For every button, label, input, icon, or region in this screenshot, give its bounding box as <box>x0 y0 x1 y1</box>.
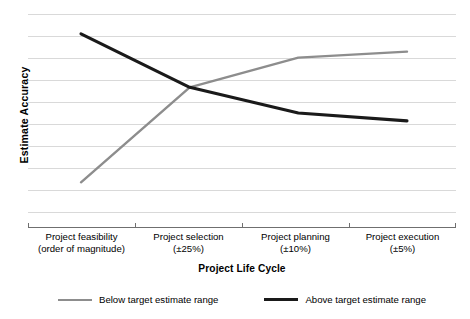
legend-item-above-target: Above target estimate range <box>264 294 426 305</box>
y-axis-title: Estimate Accuracy <box>12 0 36 230</box>
legend-swatch-icon <box>58 299 92 301</box>
x-tick-label-selection: Project selection (±25%) <box>135 231 242 256</box>
x-axis-tick-labels: Project feasibility (order of magnitude)… <box>28 231 456 256</box>
legend-item-below-target: Below target estimate range <box>58 294 218 305</box>
legend-swatch-icon <box>264 298 298 301</box>
x-tick-label-line1: Project execution <box>366 231 440 242</box>
x-tick-label-execution: Project execution (±5%) <box>349 231 456 256</box>
x-tick-label-line1: Project feasibility <box>46 231 118 242</box>
chart-legend: Below target estimate range Above target… <box>28 294 456 305</box>
x-tick-label-line2: (±5%) <box>349 243 456 255</box>
legend-label-above-target: Above target estimate range <box>305 294 426 305</box>
gridlines <box>28 15 456 213</box>
x-tick-label-line1: Project selection <box>153 231 223 242</box>
legend-label-below-target: Below target estimate range <box>99 294 218 305</box>
x-tick-label-planning: Project planning (±10%) <box>242 231 349 256</box>
x-axis-title: Project Life Cycle <box>28 263 456 274</box>
x-tick-label-line1: Project planning <box>261 231 330 242</box>
x-tick-label-feasibility: Project feasibility (order of magnitude) <box>28 231 135 256</box>
chart-container: Estimate Accuracy Project feasibility (o… <box>0 0 470 319</box>
series-line-above-target <box>81 34 407 121</box>
x-tick-label-line2: (order of magnitude) <box>28 243 135 255</box>
x-tick-label-line2: (±10%) <box>242 243 349 255</box>
x-axis <box>28 223 456 228</box>
x-tick-label-line2: (±25%) <box>135 243 242 255</box>
